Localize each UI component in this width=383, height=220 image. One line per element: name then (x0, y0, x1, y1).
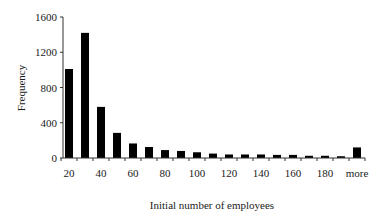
x-tick-label: 160 (285, 167, 302, 179)
bar-more (353, 147, 361, 158)
y-tick-label: 1200 (35, 46, 58, 58)
x-tick-label: 180 (317, 167, 334, 179)
bar-80 (161, 150, 169, 158)
bar-100 (193, 152, 201, 158)
y-axis: 040080012001600 (35, 11, 63, 164)
x-tick-label: 80 (160, 167, 172, 179)
x-tick-label: 20 (64, 167, 76, 179)
x-tick-label: 120 (221, 167, 238, 179)
x-axis-title: Initial number of employees (150, 199, 274, 211)
x-tick-label: 100 (189, 167, 206, 179)
bar-40 (97, 107, 105, 158)
y-tick-label: 0 (52, 152, 58, 164)
y-tick-label: 400 (41, 117, 58, 129)
bars (65, 33, 361, 158)
x-tick-label: more (346, 167, 369, 179)
bar-20 (65, 69, 73, 158)
bar-60 (129, 143, 137, 158)
bar-110 (209, 154, 217, 158)
bar-120 (225, 154, 233, 158)
bar-50 (113, 133, 121, 158)
bar-30 (81, 33, 89, 158)
x-tick-label: 40 (96, 167, 108, 179)
x-tick-label: 140 (253, 167, 270, 179)
y-tick-label: 1600 (35, 11, 58, 23)
bar-140 (257, 154, 265, 158)
y-tick-label: 800 (41, 82, 58, 94)
x-tick-label: 60 (128, 167, 140, 179)
bar-130 (241, 154, 249, 158)
histogram-chart: 040080012001600 20406080100120140160180m… (0, 0, 383, 220)
x-axis: 20406080100120140160180more (61, 158, 368, 179)
bar-90 (177, 151, 185, 158)
bar-70 (145, 147, 153, 158)
y-axis-title: Frequency (15, 64, 27, 111)
